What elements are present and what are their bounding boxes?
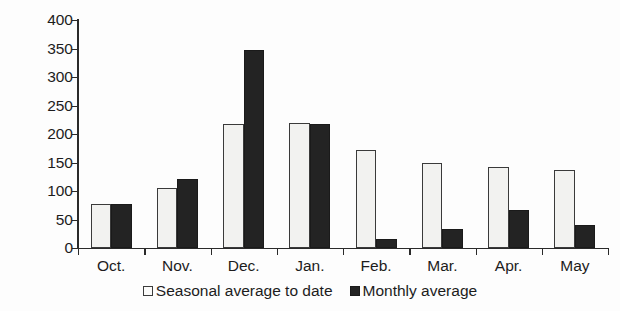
bar-seasonal (289, 123, 310, 248)
x-axis-tick-mark (78, 248, 79, 255)
bar-monthly (111, 204, 132, 248)
bar-seasonal (554, 170, 575, 248)
legend-label: Seasonal average to date (156, 282, 333, 300)
bar-monthly (244, 50, 265, 248)
bar-monthly (177, 179, 198, 248)
plot-area: 050100150200250300350400 (78, 20, 608, 248)
x-axis-label: Nov. (144, 256, 210, 276)
x-axis-tick-mark (608, 248, 609, 255)
y-axis-tick-label: 0 (64, 238, 73, 258)
bar-seasonal (488, 167, 509, 249)
bar-monthly (442, 229, 463, 248)
bar-seasonal (91, 204, 112, 248)
x-axis-tick-mark (409, 248, 410, 255)
y-axis-tick-label: 150 (47, 153, 73, 173)
x-axis-label: Mar. (409, 256, 475, 276)
x-axis-tick-mark (343, 248, 344, 255)
bar-monthly (310, 124, 331, 248)
y-axis-tick-label: 400 (47, 10, 73, 30)
x-axis-label: Jan. (277, 256, 343, 276)
x-axis-tick-mark (542, 248, 543, 255)
y-axis-tick-label: 200 (47, 124, 73, 144)
y-axis-tick-label: 100 (47, 181, 73, 201)
bar-monthly (575, 225, 596, 248)
x-axis-label: May (542, 256, 608, 276)
bar-chart-figure: Percentage 050100150200250300350400 Oct.… (0, 0, 620, 311)
bar-seasonal (356, 150, 377, 248)
y-axis-tick-label: 50 (56, 210, 73, 230)
x-axis-tick-mark (476, 248, 477, 255)
x-axis-tick-mark (277, 248, 278, 255)
y-axis-tick-label: 300 (47, 67, 73, 87)
legend-label: Monthly average (363, 282, 478, 300)
y-axis-tick-label: 350 (47, 39, 73, 59)
y-axis-title: Percentage (2, 0, 28, 52)
legend-item: Seasonal average to date (143, 282, 333, 300)
chart-legend: Seasonal average to dateMonthly average (0, 282, 620, 300)
bar-seasonal (157, 188, 178, 248)
x-axis-label: Apr. (476, 256, 542, 276)
legend-swatch-monthly (350, 286, 360, 296)
legend-item: Monthly average (350, 282, 478, 300)
x-axis-tick-mark (144, 248, 145, 255)
bar-seasonal (223, 124, 244, 248)
x-axis-label: Dec. (211, 256, 277, 276)
bar-monthly (376, 239, 397, 248)
x-axis-tick-mark (211, 248, 212, 255)
bar-monthly (509, 210, 530, 248)
y-axis-tick-label: 250 (47, 96, 73, 116)
legend-swatch-seasonal (143, 286, 153, 296)
bar-seasonal (422, 163, 443, 249)
x-axis-label: Oct. (78, 256, 144, 276)
x-axis-label: Feb. (343, 256, 409, 276)
